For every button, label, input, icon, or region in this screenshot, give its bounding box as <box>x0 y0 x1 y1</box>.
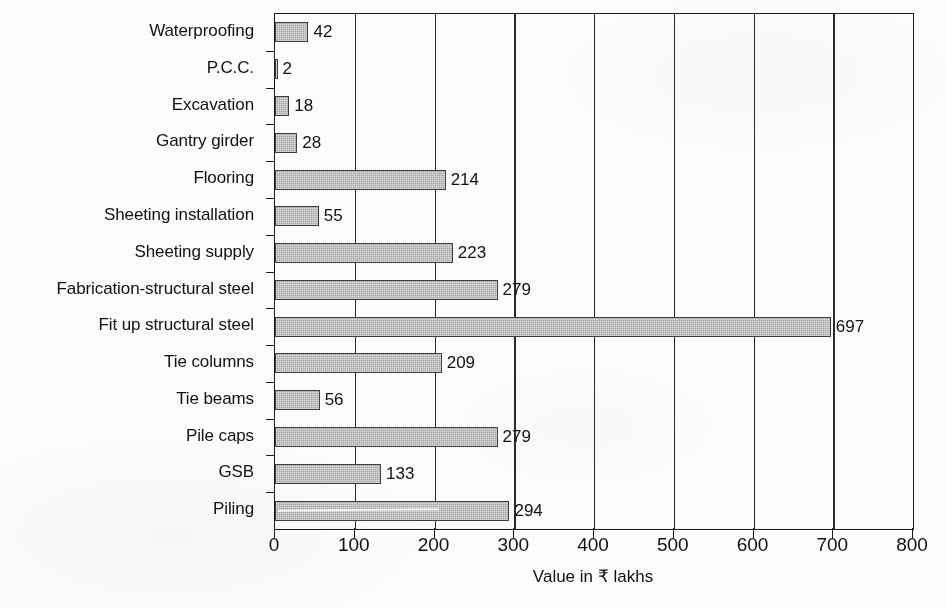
bar <box>275 427 498 447</box>
bar-row: 55 <box>275 198 913 235</box>
bar <box>275 501 509 521</box>
category-tick <box>266 455 275 456</box>
category-label: Pile caps <box>186 418 254 455</box>
bar-value-label: 279 <box>498 280 531 300</box>
bar <box>275 390 320 410</box>
bar-value-label: 18 <box>289 96 313 116</box>
bar <box>275 243 453 263</box>
bar <box>275 22 308 42</box>
value-axis-tick-label: 0 <box>269 534 280 556</box>
bar-row: 56 <box>275 382 913 419</box>
category-label: Fit up structural steel <box>99 307 254 344</box>
category-label: Flooring <box>193 160 254 197</box>
category-label: Piling <box>213 491 254 528</box>
bar-value-label: 42 <box>308 22 332 42</box>
bar-value-label: 28 <box>297 133 321 153</box>
bar-chart: WaterproofingP.C.C.ExcavationGantry gird… <box>0 0 946 608</box>
category-label: Sheeting installation <box>104 197 254 234</box>
bar <box>275 170 446 190</box>
bar-row: 294 <box>275 492 913 529</box>
category-tick <box>266 492 275 493</box>
category-tick <box>266 198 275 199</box>
bar-row: 279 <box>275 272 913 309</box>
category-label: Waterproofing <box>149 13 254 50</box>
category-label: Tie columns <box>164 344 254 381</box>
category-label: Tie beams <box>176 381 254 418</box>
bar <box>275 133 297 153</box>
value-axis-tick-label: 300 <box>497 534 529 556</box>
category-tick <box>266 235 275 236</box>
category-label: Excavation <box>172 87 254 124</box>
bar <box>275 280 498 300</box>
bar-value-label: 294 <box>509 501 542 521</box>
bar <box>275 317 831 337</box>
category-label: GSB <box>218 454 254 491</box>
category-tick <box>266 272 275 273</box>
bar-row: 2 <box>275 51 913 88</box>
scan-artifact-streak <box>278 509 439 512</box>
bar-row: 209 <box>275 345 913 382</box>
category-tick <box>266 419 275 420</box>
bar-row: 42 <box>275 14 913 51</box>
bar <box>275 464 381 484</box>
value-axis-tick-label: 600 <box>737 534 769 556</box>
bar-value-label: 2 <box>278 59 292 79</box>
bar-row: 133 <box>275 455 913 492</box>
category-tick <box>266 382 275 383</box>
bar-value-label: 214 <box>446 170 479 190</box>
bar-value-label: 55 <box>319 206 343 226</box>
bar-value-label: 209 <box>442 353 475 373</box>
category-axis-labels: WaterproofingP.C.C.ExcavationGantry gird… <box>0 13 264 528</box>
value-axis-tick-label: 500 <box>657 534 689 556</box>
value-axis-tick-label: 100 <box>338 534 370 556</box>
category-tick <box>266 345 275 346</box>
bar-row: 279 <box>275 419 913 456</box>
bar-value-label: 223 <box>453 243 486 263</box>
value-axis-tick-label: 800 <box>896 534 928 556</box>
category-tick <box>266 161 275 162</box>
category-tick <box>266 308 275 309</box>
value-axis-tick-label: 200 <box>418 534 450 556</box>
category-label: P.C.C. <box>207 50 254 87</box>
bar-value-label: 279 <box>498 427 531 447</box>
bar <box>275 96 289 116</box>
bar-value-label: 697 <box>831 317 864 337</box>
bar-value-label: 133 <box>381 464 414 484</box>
bar-value-label: 56 <box>320 390 344 410</box>
value-axis-tick-label: 700 <box>816 534 848 556</box>
bar <box>275 206 319 226</box>
bar-row: 214 <box>275 161 913 198</box>
x-axis-title: Value in ₹ lakhs <box>274 566 912 587</box>
bar-row: 28 <box>275 124 913 161</box>
category-label: Gantry girder <box>156 123 254 160</box>
category-tick <box>266 124 275 125</box>
bar-row: 18 <box>275 88 913 125</box>
value-axis-tick-label: 400 <box>577 534 609 556</box>
category-label: Sheeting supply <box>135 234 254 271</box>
category-tick <box>266 88 275 89</box>
category-label: Fabrication-structural steel <box>57 271 255 308</box>
bar-row: 697 <box>275 308 913 345</box>
bar <box>275 353 442 373</box>
plot-area: 42218282145522327969720956279133294 <box>274 13 914 530</box>
category-tick <box>266 51 275 52</box>
bar-row: 223 <box>275 235 913 272</box>
